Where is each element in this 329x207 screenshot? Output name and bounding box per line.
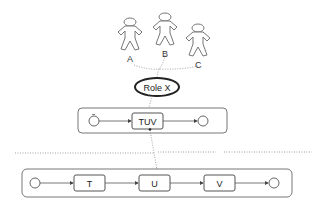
- task-u[interactable]: U: [139, 175, 170, 191]
- person-icon: [118, 18, 142, 50]
- task-label: V: [216, 179, 222, 189]
- actor-label: A: [127, 54, 133, 64]
- actor-label: B: [162, 49, 168, 59]
- refinement-link-tuv-u: [150, 130, 157, 170]
- task-v[interactable]: V: [204, 175, 235, 191]
- task-label: U: [151, 179, 158, 189]
- lower-end-event[interactable]: [269, 178, 279, 188]
- association-a-role: [134, 65, 159, 69]
- role-label: Role X: [143, 83, 170, 93]
- association-actors-role-stem: [157, 69, 159, 78]
- task-label: TUV: [139, 117, 157, 127]
- actor-a: A: [118, 18, 142, 64]
- task-tuv[interactable]: TUV: [132, 113, 163, 129]
- person-icon: [153, 13, 177, 45]
- actor-b: B: [153, 13, 177, 59]
- actor-c: C: [186, 24, 210, 70]
- actor-label: C: [195, 60, 202, 70]
- role-node[interactable]: Role X: [135, 78, 179, 96]
- diagram-canvas: A B C Role X TUV: [0, 0, 329, 207]
- person-icon: [186, 24, 210, 56]
- task-t[interactable]: T: [74, 175, 105, 191]
- upper-end-event[interactable]: [198, 116, 208, 126]
- association-c-role: [159, 66, 198, 69]
- lower-start-event[interactable]: [30, 178, 40, 188]
- task-label: T: [87, 179, 93, 189]
